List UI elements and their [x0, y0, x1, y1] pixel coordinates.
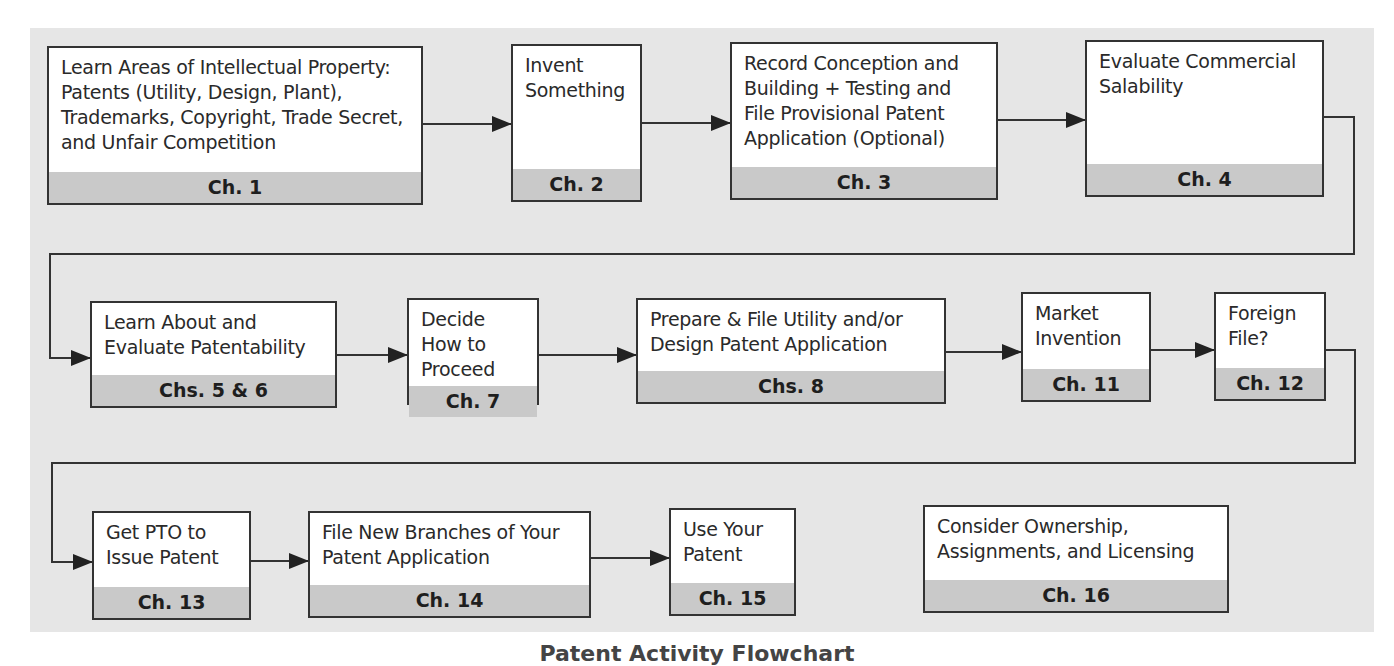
chapter-label: Chs. 5 & 6 [92, 375, 335, 406]
step-box-ch13: Get PTO to Issue Patent Ch. 13 [92, 511, 251, 620]
step-text: Consider Ownership, Assignments, and Lic… [925, 507, 1227, 580]
chapter-label: Ch. 11 [1023, 369, 1149, 400]
chapter-label: Ch. 13 [94, 587, 249, 618]
step-box-ch14: File New Branches of Your Patent Applica… [308, 511, 591, 618]
step-text: File New Branches of Your Patent Applica… [310, 513, 589, 585]
step-text: Evaluate Commercial Salability [1087, 42, 1322, 164]
step-box-ch11: Market Invention Ch. 11 [1021, 292, 1151, 402]
chapter-label: Ch. 16 [925, 580, 1227, 611]
step-text: Use Your Patent [671, 510, 794, 583]
step-box-ch8: Prepare & File Utility and/or Design Pat… [636, 298, 946, 404]
step-text: Foreign File? [1216, 294, 1324, 368]
step-text: Learn Areas of Intellectual Property: Pa… [49, 48, 421, 172]
chapter-label: Ch. 12 [1216, 368, 1324, 399]
chapter-label: Ch. 7 [409, 386, 537, 417]
step-box-ch4: Evaluate Commercial Salability Ch. 4 [1085, 40, 1324, 197]
step-text: Decide How to Proceed [409, 300, 537, 386]
chapter-label: Ch. 4 [1087, 164, 1322, 195]
step-box-ch3: Record Conception and Building + Testing… [730, 42, 998, 200]
step-box-ch16: Consider Ownership, Assignments, and Lic… [923, 505, 1229, 613]
chapter-label: Ch. 3 [732, 167, 996, 198]
chapter-label: Chs. 8 [638, 371, 944, 402]
chapter-label: Ch. 1 [49, 172, 421, 203]
step-box-ch15: Use Your Patent Ch. 15 [669, 508, 796, 616]
step-text: Learn About and Evaluate Patentability [92, 303, 335, 375]
step-box-ch5-6: Learn About and Evaluate Patentability C… [90, 301, 337, 408]
step-box-ch12: Foreign File? Ch. 12 [1214, 292, 1326, 401]
step-text: Market Invention [1023, 294, 1149, 369]
chapter-label: Ch. 2 [513, 169, 640, 200]
step-text: Invent Something [513, 46, 640, 169]
step-box-ch7: Decide How to Proceed Ch. 7 [407, 298, 539, 405]
step-text: Get PTO to Issue Patent [94, 513, 249, 587]
step-box-ch1: Learn Areas of Intellectual Property: Pa… [47, 46, 423, 205]
figure-caption: Patent Activity Flowchart [0, 641, 1394, 666]
step-box-ch2: Invent Something Ch. 2 [511, 44, 642, 202]
chapter-label: Ch. 14 [310, 585, 589, 616]
step-text: Record Conception and Building + Testing… [732, 44, 996, 167]
chapter-label: Ch. 15 [671, 583, 794, 614]
step-text: Prepare & File Utility and/or Design Pat… [638, 300, 944, 371]
